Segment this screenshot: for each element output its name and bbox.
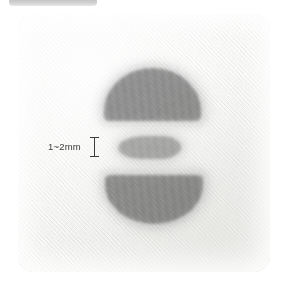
fabric-closeup-photo: 1~2mm bbox=[18, 14, 270, 272]
partial-rounded-bar bbox=[9, 0, 97, 6]
photo-vignette bbox=[18, 14, 270, 272]
